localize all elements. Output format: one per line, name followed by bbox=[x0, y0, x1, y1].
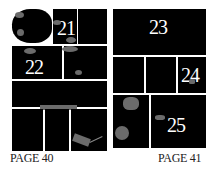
gray-blob bbox=[75, 70, 82, 75]
gray-blob bbox=[189, 79, 195, 84]
panel-p41-3[interactable] bbox=[146, 57, 176, 93]
gray-blob bbox=[66, 37, 76, 43]
panel-p40-1[interactable] bbox=[12, 9, 52, 44]
page-40-caption: PAGE 40 bbox=[10, 151, 53, 166]
page-40-layout: 21 22 bbox=[12, 9, 107, 151]
gray-blob bbox=[123, 97, 139, 110]
page-41-layout: 23 24 25 bbox=[113, 9, 206, 149]
gray-blob bbox=[115, 126, 129, 140]
gray-tilted-shape bbox=[72, 133, 91, 146]
panel-p41-6[interactable]: 25 bbox=[151, 95, 206, 148]
gray-blob bbox=[15, 12, 24, 18]
panel-p40-6[interactable] bbox=[12, 81, 107, 107]
gray-blob bbox=[24, 48, 36, 54]
gray-blob bbox=[155, 115, 165, 120]
panel-number: 22 bbox=[25, 57, 43, 77]
page-41-caption: PAGE 41 bbox=[158, 151, 201, 166]
panel-number: 25 bbox=[167, 115, 185, 135]
panel-p40-5[interactable] bbox=[64, 46, 107, 79]
panel-p41-2[interactable] bbox=[113, 57, 144, 93]
gray-blob bbox=[17, 29, 24, 36]
gray-blob bbox=[53, 20, 61, 25]
panel-p41-4[interactable]: 24 bbox=[178, 57, 206, 93]
panel-p40-7[interactable] bbox=[12, 109, 43, 151]
panel-p40-8[interactable] bbox=[45, 109, 69, 151]
panel-p41-5[interactable] bbox=[113, 95, 149, 148]
panel-p40-9[interactable] bbox=[71, 109, 107, 151]
panel-p40-2[interactable]: 21 bbox=[53, 9, 77, 44]
panel-number: 23 bbox=[149, 17, 167, 37]
panel-p40-3[interactable] bbox=[78, 9, 107, 44]
panel-p41-1[interactable]: 23 bbox=[113, 9, 206, 55]
gray-blob bbox=[62, 46, 78, 52]
thin-line bbox=[89, 136, 102, 143]
panel-p40-4[interactable]: 22 bbox=[12, 46, 62, 79]
